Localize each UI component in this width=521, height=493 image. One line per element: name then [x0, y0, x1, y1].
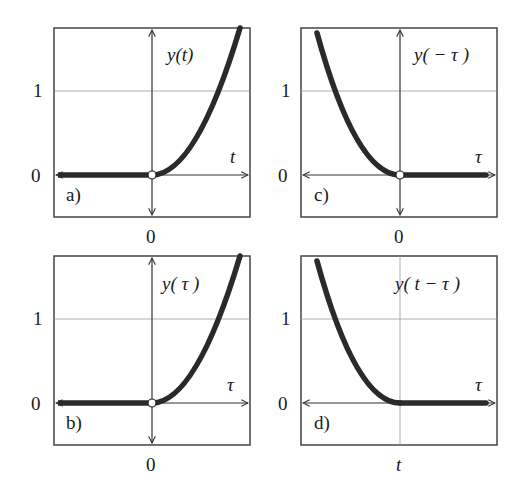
- panel-c-xtick-0: 0: [394, 226, 404, 247]
- panel-b-x-label: τ: [227, 374, 235, 395]
- panel-d-x-label: τ: [475, 374, 483, 395]
- panel-d-ytick-1: 1: [281, 308, 291, 329]
- panel-b-label: b): [66, 412, 82, 434]
- panel-a-ytick-0: 0: [31, 165, 41, 186]
- panel-b-ytick-0: 0: [31, 393, 41, 414]
- panel-c: y( − τ ) τ c) 1 0 0: [278, 28, 497, 247]
- panel-d-xtick-t: t: [396, 454, 402, 475]
- panel-a-x-label: t: [230, 146, 236, 167]
- panel-a-curve-label: y(t): [165, 44, 193, 66]
- panel-c-label: c): [314, 184, 329, 206]
- panel-b: y( τ ) τ b) 1 0 0: [31, 256, 250, 475]
- panel-d-curve-label: y( t − τ ): [393, 273, 460, 295]
- panel-b-ytick-1: 1: [33, 308, 43, 329]
- panel-c-ytick-0: 0: [278, 165, 288, 186]
- panel-c-open-circle: [396, 171, 404, 179]
- panel-b-curve-label: y( τ ): [160, 273, 199, 295]
- panel-a-label: a): [66, 184, 81, 206]
- panel-a-ytick-1: 1: [33, 80, 43, 101]
- panel-c-x-label: τ: [475, 146, 483, 167]
- panel-c-curve-label: y( − τ ): [412, 44, 469, 66]
- panel-d-curve: [317, 261, 400, 403]
- panel-a-curve: [152, 28, 240, 175]
- panel-b-xtick-0: 0: [146, 454, 156, 475]
- panel-c-curve: [317, 33, 400, 175]
- panel-d-label: d): [314, 412, 330, 434]
- figure-canvas: y(t) t a) 1 0 0 y( − τ ) τ c) 1 0 0 y( τ…: [0, 0, 521, 493]
- panel-d-ytick-0: 0: [278, 393, 288, 414]
- panel-a-xtick-0: 0: [146, 226, 156, 247]
- panel-c-ytick-1: 1: [281, 80, 291, 101]
- panel-b-open-circle: [148, 399, 156, 407]
- panel-a: y(t) t a) 1 0 0: [31, 28, 250, 247]
- panel-a-open-circle: [148, 171, 156, 179]
- panel-d: y( t − τ ) τ d) 1 0 t: [278, 256, 497, 475]
